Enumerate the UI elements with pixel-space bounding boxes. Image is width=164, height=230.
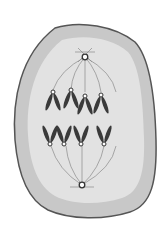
cell-illustration bbox=[0, 0, 164, 230]
anaphase-diagram bbox=[0, 0, 164, 230]
cytoplasm-inner bbox=[28, 37, 144, 203]
centrosome-bottom bbox=[79, 182, 85, 188]
centrosome-top bbox=[82, 54, 88, 60]
